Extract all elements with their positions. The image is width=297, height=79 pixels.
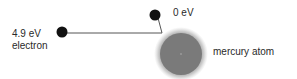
electron-path xyxy=(62,18,162,33)
incoming-electron xyxy=(57,27,68,38)
electron-energy-label: 4.9 eV xyxy=(12,28,41,39)
mercury-atom xyxy=(154,27,208,79)
electron-name-label: electron xyxy=(12,40,48,51)
scattered-electron-energy-label: 0 eV xyxy=(173,7,194,18)
mercury-atom-label: mercury atom xyxy=(213,46,274,57)
scattered-electron xyxy=(150,10,161,21)
